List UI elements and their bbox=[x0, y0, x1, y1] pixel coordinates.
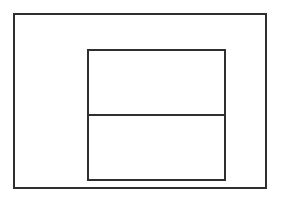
inner-top-panel bbox=[89, 51, 224, 115]
inner-bottom-panel bbox=[89, 115, 224, 179]
inner-rectangle bbox=[87, 49, 226, 181]
diagram-canvas bbox=[0, 0, 281, 200]
outer-rectangle bbox=[13, 13, 267, 189]
